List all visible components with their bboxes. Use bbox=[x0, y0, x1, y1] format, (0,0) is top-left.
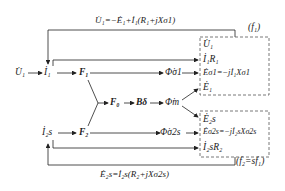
f2-node: F₂ bbox=[79, 128, 89, 138]
stator-item-i1r1: İ₁R₁ bbox=[203, 55, 219, 65]
i2s-node: İ₂s bbox=[42, 128, 52, 138]
f0-node: F₀ bbox=[110, 98, 120, 108]
stator-item-u1: U̇₁ bbox=[203, 40, 213, 50]
stator-item-e-sigma1: Ėσ1=−jİ₁Xσ1 bbox=[203, 68, 250, 77]
phi-m-node: Φ̇m bbox=[165, 98, 179, 108]
freq-stator-label: (f₁) bbox=[248, 23, 260, 33]
f1-node: F₁ bbox=[79, 68, 89, 78]
top-equation: U̇₁=−Ė₁+İ₁(R₁+jXσ1) bbox=[95, 16, 175, 25]
bottom-equation: Ė₂s=İ₂s(R₂+jXσ2s) bbox=[100, 170, 169, 179]
b-delta-node: Bδ bbox=[136, 98, 147, 108]
freq-rotor-label: (f₂=sf₁) bbox=[236, 157, 264, 167]
rotor-item-e-sigma2s: Ėσ2s=−jİ₂sXσ2s bbox=[203, 128, 256, 136]
phi-sigma1-node: Φ̇σ1 bbox=[165, 68, 182, 78]
i1-node: İ₁ bbox=[44, 68, 50, 78]
phi-sigma2s-node: Φ̇σ2s bbox=[160, 128, 180, 138]
rotor-item-e2s: Ė₂s bbox=[203, 115, 216, 125]
stator-item-e1: Ė₁ bbox=[203, 83, 212, 93]
u1-input-node: U̇₁ bbox=[15, 68, 25, 78]
rotor-item-i2sr2: İ₂sR₂ bbox=[203, 143, 222, 153]
